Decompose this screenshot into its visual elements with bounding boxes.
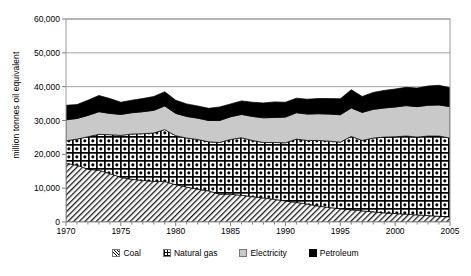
legend-item-coal: Coal — [112, 248, 140, 258]
x-axis-tick-label: 1985 — [221, 226, 240, 236]
legend-label: Coal — [123, 248, 140, 258]
x-axis-tick-labels: 19701975198019851990199520002005 — [0, 226, 471, 240]
area-series-group — [66, 85, 450, 222]
legend-label: Electricity — [250, 248, 286, 258]
electricity-swatch-icon — [239, 249, 247, 257]
x-axis-tick-label: 1970 — [57, 226, 76, 236]
legend-label: Natural gas — [174, 248, 217, 258]
legend-item-electricity: Electricity — [239, 248, 286, 258]
x-axis-tick-label: 1990 — [276, 226, 295, 236]
x-axis-tick-label: 1975 — [111, 226, 130, 236]
stacked-area-chart: million tonnes oil equivalent 010,00020,… — [0, 0, 471, 276]
coal-swatch-icon — [112, 249, 120, 257]
x-axis-tick-label: 2005 — [441, 226, 460, 236]
x-axis-tick-label: 2000 — [386, 226, 405, 236]
x-axis-tick-label: 1980 — [166, 226, 185, 236]
legend-item-petroleum: Petroleum — [309, 248, 359, 258]
x-axis-tick-label: 1995 — [331, 226, 350, 236]
chart-legend: CoalNatural gasElectricityPetroleum — [0, 248, 471, 258]
legend-item-natural-gas: Natural gas — [163, 248, 217, 258]
legend-label: Petroleum — [320, 248, 359, 258]
petroleum-swatch-icon — [309, 249, 317, 257]
natural-gas-swatch-icon — [163, 249, 171, 257]
